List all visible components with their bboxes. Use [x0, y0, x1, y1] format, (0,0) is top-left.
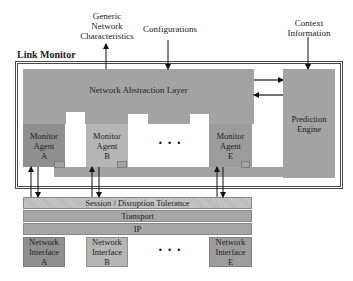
agent-id: B [93, 151, 121, 161]
agent-a-tab [54, 161, 65, 168]
agent-line: Agent [217, 141, 245, 151]
agent-line: Monitor [217, 131, 245, 141]
agents-ellipsis: • • • [155, 139, 185, 148]
prediction-engine-line: Engine [292, 124, 327, 134]
agent-line: Agent [30, 141, 58, 151]
agent-id: E [217, 151, 245, 161]
agent-b-tab [117, 161, 127, 168]
ni-line: Interface [29, 247, 59, 257]
agents-connector-bar [54, 167, 283, 177]
ni-id: B [92, 257, 122, 267]
label-line: Context [280, 18, 338, 28]
label-line: Characteristics [70, 31, 144, 41]
ni-line: Network [215, 237, 245, 247]
network-interface-e: Network Interface E [209, 237, 252, 267]
ni-line: Network [92, 237, 122, 247]
context-information-label: Context Information [280, 18, 338, 38]
session-disruption-tolerance-layer: Session / Disruption Tolerance [23, 197, 252, 209]
agent-id: A [30, 151, 58, 161]
agent-line: Monitor [93, 131, 121, 141]
link-monitor-title: Link Monitor [17, 49, 76, 60]
ni-id: A [29, 257, 59, 267]
prediction-engine-line: Prediction [292, 114, 327, 124]
transport-layer: Transport [23, 210, 252, 222]
network-interface-a: Network Interface A [23, 237, 65, 267]
nal-notch-left [66, 112, 85, 167]
label-line: Generic [70, 11, 144, 21]
agent-e-tab [241, 161, 250, 168]
prediction-engine: Prediction Engine [283, 69, 335, 178]
label-line: Information [280, 28, 338, 38]
ni-id: E [215, 257, 245, 267]
ni-line: Interface [215, 247, 245, 257]
nal-notch-center-left [128, 114, 148, 167]
interfaces-ellipsis: • • • [155, 246, 185, 255]
ni-line: Interface [92, 247, 122, 257]
label-line: Network [70, 21, 144, 31]
generic-network-characteristics-label: Generic Network Characteristics [70, 11, 144, 41]
network-interface-b: Network Interface B [86, 237, 128, 267]
agent-line: Monitor [30, 131, 58, 141]
network-abstraction-layer-label: Network Abstraction Layer [23, 85, 254, 95]
nal-notch-center-right [190, 114, 209, 167]
ni-line: Network [29, 237, 59, 247]
agent-line: Agent [93, 141, 121, 151]
configurations-label: Configurations [135, 24, 205, 34]
ip-layer: IP [23, 223, 252, 235]
